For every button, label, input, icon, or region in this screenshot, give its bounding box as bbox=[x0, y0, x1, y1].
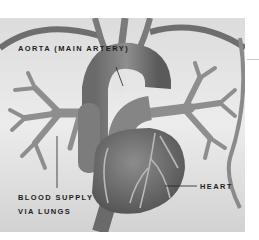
margin-rule-line bbox=[247, 59, 259, 60]
label-blood-supply-line2: VIA LUNGS bbox=[18, 207, 71, 216]
label-blood-supply-line1: BLOOD SUPPLY bbox=[18, 193, 93, 202]
label-heart: HEART bbox=[200, 182, 233, 191]
label-aorta: AORTA (MAIN ARTERY) bbox=[18, 44, 129, 53]
